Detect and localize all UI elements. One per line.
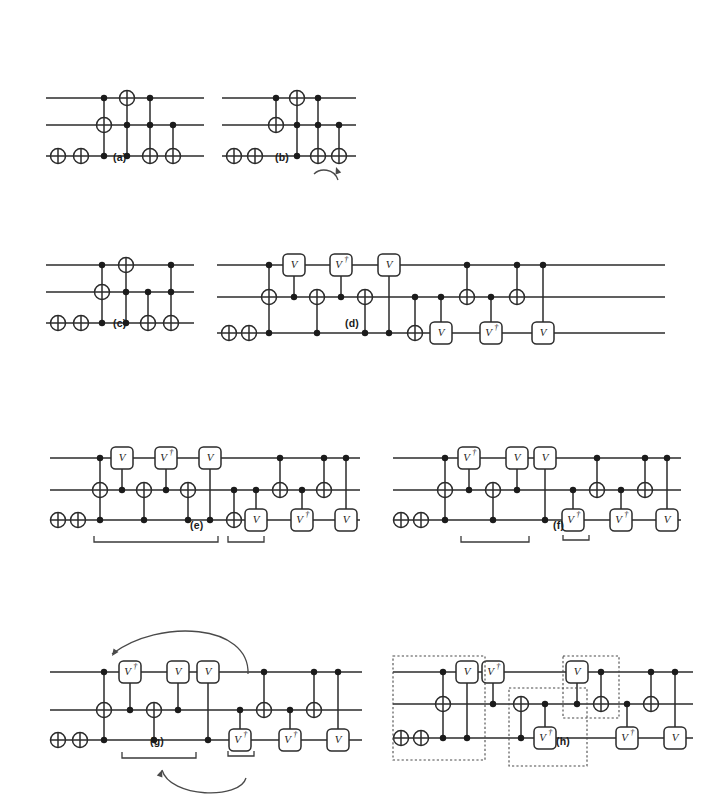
control-dot-icon <box>514 487 520 493</box>
not-target-icon <box>119 258 134 273</box>
control-dot-icon <box>266 262 272 268</box>
not-target-icon <box>307 703 322 718</box>
not-target-icon <box>638 483 653 498</box>
panel-label-c: (c) <box>113 317 126 329</box>
v-dagger-gate: V† <box>229 729 251 751</box>
control-dot-icon <box>440 735 446 741</box>
v-gate: V <box>566 661 588 683</box>
control-dot-icon <box>335 669 341 675</box>
v-gate: V <box>430 322 452 344</box>
v-dagger-gate: V† <box>119 661 141 683</box>
not-target-icon <box>394 513 409 528</box>
control-dot-icon <box>542 701 548 707</box>
not-target-icon <box>262 290 277 305</box>
v-gate: V <box>335 509 357 531</box>
control-dot-icon <box>343 455 349 461</box>
panel-label-f: (f) <box>553 519 564 531</box>
control-dot-icon <box>124 122 130 128</box>
control-dot-icon <box>488 294 494 300</box>
control-dot-icon <box>442 517 448 523</box>
control-dot-icon <box>141 517 147 523</box>
annotation-arrow <box>162 770 246 793</box>
not-target-icon <box>248 149 263 164</box>
v-dagger-gate: V† <box>155 447 177 469</box>
not-target-icon <box>510 290 525 305</box>
panel-label-g: (g) <box>150 735 164 747</box>
not-target-icon <box>290 91 305 106</box>
control-dot-icon <box>175 707 181 713</box>
not-target-icon <box>51 149 66 164</box>
control-dot-icon <box>97 455 103 461</box>
control-dot-icon <box>490 701 496 707</box>
control-dot-icon <box>237 707 243 713</box>
not-target-icon <box>227 513 242 528</box>
v-dagger-gate: V† <box>480 322 502 344</box>
control-dot-icon <box>464 262 470 268</box>
not-target-icon <box>394 731 409 746</box>
control-dot-icon <box>277 455 283 461</box>
not-target-icon <box>164 316 179 331</box>
v-gate: V <box>534 447 556 469</box>
control-dot-icon <box>570 487 576 493</box>
control-dot-icon <box>466 487 472 493</box>
not-target-icon <box>644 697 659 712</box>
control-dot-icon <box>163 487 169 493</box>
not-target-icon <box>51 733 66 748</box>
control-dot-icon <box>253 487 259 493</box>
control-dot-icon <box>315 95 321 101</box>
control-dot-icon <box>294 153 300 159</box>
control-dot-icon <box>464 735 470 741</box>
control-dot-icon <box>99 320 105 326</box>
control-dot-icon <box>624 701 630 707</box>
control-dot-icon <box>540 262 546 268</box>
control-dot-icon <box>362 330 368 336</box>
not-target-icon <box>257 703 272 718</box>
not-target-icon <box>436 697 451 712</box>
panel-label-e: (e) <box>190 519 203 531</box>
not-target-icon <box>51 513 66 528</box>
v-gate: V <box>378 254 400 276</box>
not-target-icon <box>51 316 66 331</box>
v-gate: V <box>197 661 219 683</box>
control-dot-icon <box>231 487 237 493</box>
circuit-panel-g: V†VVV†V†V <box>40 608 380 798</box>
v-gate: V <box>456 661 478 683</box>
control-dot-icon <box>119 487 125 493</box>
control-dot-icon <box>514 262 520 268</box>
control-dot-icon <box>261 669 267 675</box>
not-target-icon <box>93 483 108 498</box>
not-target-icon <box>74 149 89 164</box>
not-target-icon <box>137 483 152 498</box>
group-bracket <box>122 752 196 758</box>
not-target-icon <box>408 326 423 341</box>
control-dot-icon <box>315 122 321 128</box>
control-dot-icon <box>127 707 133 713</box>
not-target-icon <box>97 703 112 718</box>
not-target-icon <box>95 285 110 300</box>
v-dagger-gate: V† <box>562 509 584 531</box>
control-dot-icon <box>664 455 670 461</box>
control-dot-icon <box>440 669 446 675</box>
circuit-panel-c <box>34 205 214 405</box>
circuit-panel-d: VV†VVV†V <box>207 205 687 415</box>
control-dot-icon <box>168 289 174 295</box>
control-dot-icon <box>97 517 103 523</box>
control-dot-icon <box>291 294 297 300</box>
control-dot-icon <box>101 95 107 101</box>
control-dot-icon <box>321 455 327 461</box>
v-dagger-gate: V† <box>534 727 556 749</box>
circuit-panel-e: VV†VVV†V <box>40 398 380 613</box>
control-dot-icon <box>336 122 342 128</box>
not-target-icon <box>181 483 196 498</box>
control-dot-icon <box>490 517 496 523</box>
not-target-icon <box>242 326 257 341</box>
control-dot-icon <box>442 455 448 461</box>
v-gate: V <box>167 661 189 683</box>
panel-label-a: (a) <box>113 151 126 163</box>
not-target-icon <box>147 703 162 718</box>
v-gate: V <box>245 509 267 531</box>
panel-label-d: (d) <box>345 317 359 329</box>
v-gate: V <box>283 254 305 276</box>
control-dot-icon <box>147 95 153 101</box>
v-dagger-gate: V† <box>616 727 638 749</box>
